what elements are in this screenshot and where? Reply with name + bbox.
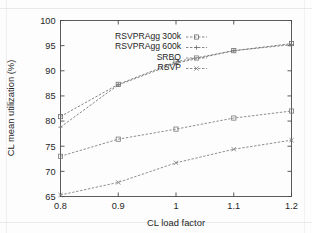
legend-label-0: RSVPRAgg 300k [115, 31, 182, 41]
chart-figure: 65707580859095100 0.80.911.11.2 RSVPRAgg… [0, 0, 312, 233]
x-tick-label: 0.8 [54, 201, 67, 211]
x-tick-label: 1 [173, 201, 178, 211]
x-tick-label: 1.2 [285, 201, 298, 211]
chart-legend: RSVPRAgg 300kRSVPRAgg 600kSRBQRSVP [115, 31, 207, 73]
series-3 [58, 138, 293, 197]
y-tick-label: 80 [45, 116, 55, 126]
y-tick-label: 100 [40, 16, 55, 26]
x-axis-title: CL load factor [147, 217, 205, 228]
legend-label-2: SRBQ [157, 52, 182, 62]
y-tick-label: 95 [45, 41, 55, 51]
y-tick-label: 70 [45, 167, 55, 177]
series-line [61, 140, 292, 195]
legend-label-3: RSVP [158, 62, 182, 72]
y-tick-label: 75 [45, 142, 55, 152]
series-line [61, 111, 292, 156]
legend-label-1: RSVPRAgg 600k [115, 41, 182, 51]
y-axis-title: CL mean utilization (%) [5, 60, 16, 157]
y-tick-label: 90 [45, 66, 55, 76]
line-chart: 65707580859095100 0.80.911.11.2 RSVPRAgg… [0, 0, 312, 233]
x-tick-label: 0.9 [112, 201, 125, 211]
series-2 [58, 109, 293, 158]
y-tick-label: 85 [45, 91, 55, 101]
x-tick-label: 1.1 [227, 201, 240, 211]
